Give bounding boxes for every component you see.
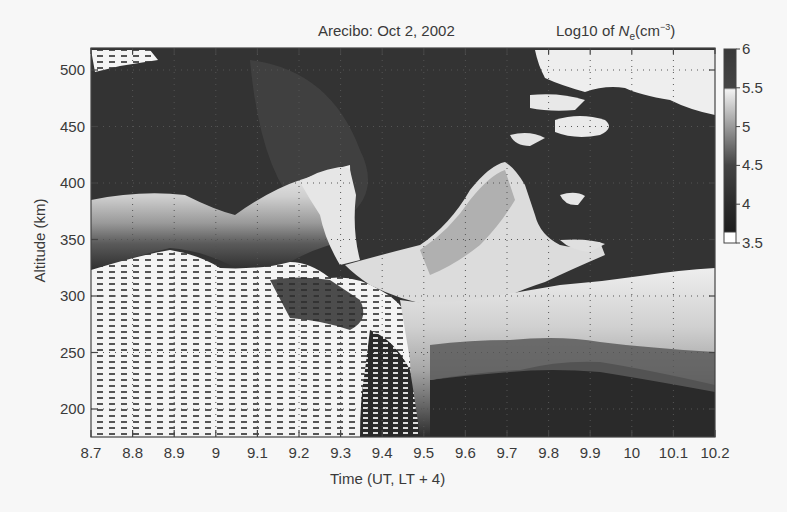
y-tick-label: 500 [60, 61, 85, 78]
x-tick-label: 9.9 [580, 444, 601, 461]
x-tick-label: 9.3 [330, 444, 351, 461]
colorbar-tick-label: 3.5 [742, 234, 763, 251]
colorbar-tick-label: 5.5 [742, 79, 763, 96]
x-axis-label: Time (UT, LT + 4) [330, 470, 445, 487]
colorbar-tick-label: 6 [742, 40, 750, 57]
x-tick-label: 9.4 [372, 444, 393, 461]
x-tick-label: 8.7 [81, 444, 102, 461]
colorbar: 65.554.543.5 [724, 40, 763, 251]
heatmap-area [91, 48, 715, 437]
x-tick-label: 9.8 [538, 444, 559, 461]
x-tick-label: 10.1 [659, 444, 688, 461]
colorbar-title: Log10 of Ne(cm−3) [556, 22, 675, 42]
x-tick-label: 9 [212, 444, 220, 461]
y-tick-label: 200 [60, 400, 85, 417]
colorbar-tick-label: 4.5 [742, 156, 763, 173]
x-tick-label: 9.7 [497, 444, 518, 461]
x-tick-label: 9.2 [289, 444, 310, 461]
x-tick-label: 8.9 [164, 444, 185, 461]
x-tick-label: 9.5 [413, 444, 434, 461]
x-tick-label: 8.8 [122, 444, 143, 461]
colorbar-tick-label: 4 [742, 195, 750, 212]
x-tick-label: 9.1 [247, 444, 268, 461]
y-tick-label: 300 [60, 287, 85, 304]
x-tick-label: 9.6 [455, 444, 476, 461]
chart-title: Arecibo: Oct 2, 2002 [318, 22, 455, 39]
x-tick-label: 10.2 [700, 444, 729, 461]
y-tick-label: 400 [60, 174, 85, 191]
y-axis-label: Altitude (km) [31, 196, 48, 286]
y-tick-label: 450 [60, 118, 85, 135]
x-tick-label: 10 [623, 444, 640, 461]
chart-figure: 8.78.88.999.19.29.39.49.59.69.79.89.9101… [0, 0, 787, 512]
y-tick-label: 250 [60, 344, 85, 361]
y-tick-label: 350 [60, 231, 85, 248]
colorbar-tick-label: 5 [742, 118, 750, 135]
